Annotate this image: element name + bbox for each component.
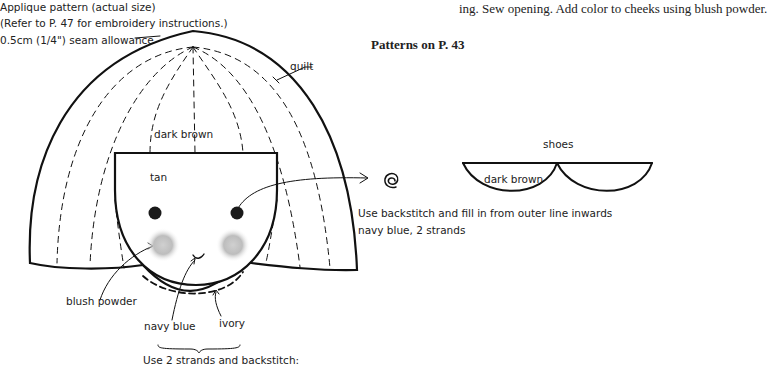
blush-label: blush powder bbox=[66, 296, 137, 307]
shoe-right bbox=[557, 163, 652, 191]
face-color-label: tan bbox=[150, 172, 167, 183]
left-eye bbox=[149, 207, 162, 220]
mouth-color-label: navy blue bbox=[144, 321, 196, 332]
brace bbox=[158, 345, 240, 353]
shoes-title: shoes bbox=[543, 139, 573, 150]
quilt-label: quilt bbox=[290, 61, 313, 72]
right-eye bbox=[231, 207, 244, 220]
right-cheek-blush bbox=[216, 228, 250, 262]
seam-leader-line bbox=[135, 36, 160, 38]
left-cheek-blush bbox=[146, 228, 180, 262]
stitch-note: Use 2 strands and backstitch: bbox=[143, 355, 299, 366]
eye-note-line1: Use backstitch and fill in from outer li… bbox=[358, 208, 612, 219]
eye-note-line2: navy blue, 2 strands bbox=[358, 225, 465, 236]
hair-color-label: dark brown bbox=[154, 129, 213, 140]
shoes-color-label: dark brown bbox=[484, 174, 543, 185]
spiral-icon bbox=[385, 174, 398, 188]
chin-color-label: ivory bbox=[219, 318, 245, 329]
